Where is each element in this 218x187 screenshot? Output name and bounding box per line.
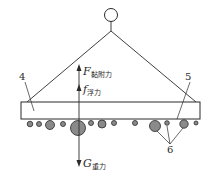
bubble-row <box>27 120 198 136</box>
bubble <box>180 120 188 128</box>
bubble <box>133 121 138 126</box>
arrow-down-icon <box>77 160 82 167</box>
bubble <box>112 121 117 126</box>
bubble <box>194 121 198 125</box>
arrow-up-icon <box>77 84 82 91</box>
diagram-svg: F黏附力 f浮力 G重力 4 5 6 <box>0 0 218 187</box>
plate <box>21 102 200 119</box>
bubble <box>89 121 94 126</box>
force-label-adhesion: F黏附力 <box>82 65 112 79</box>
arrow-up-icon <box>77 64 82 71</box>
bubble <box>61 122 66 127</box>
bubble <box>27 121 33 127</box>
force-label-buoyancy: f浮力 <box>82 83 101 97</box>
bubble <box>46 121 55 130</box>
bubble <box>150 121 161 132</box>
bubble <box>165 121 170 126</box>
hook-ring-icon <box>105 9 118 22</box>
bubble <box>71 121 86 136</box>
callout-plate-number: 4 <box>19 71 25 82</box>
callout-bubbles-leader-3 <box>170 128 183 144</box>
sling-rope-right <box>111 31 196 102</box>
force-label-gravity: G重力 <box>83 157 106 171</box>
force-diagram: F黏附力 f浮力 G重力 4 5 6 <box>0 0 218 187</box>
callout-surface-number: 5 <box>185 71 191 82</box>
bubble <box>37 122 42 127</box>
callout-bubbles-number: 6 <box>167 144 173 155</box>
bubble <box>98 120 106 128</box>
